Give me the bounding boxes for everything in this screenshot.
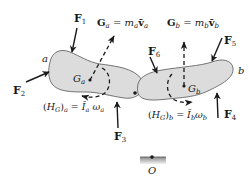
body-a-label: a	[42, 53, 48, 64]
angular-momentum-a-label: (HG)a = Īa ωa	[43, 101, 104, 114]
force-f1-arrow	[72, 28, 77, 52]
fixed-point-o-label: O	[148, 165, 156, 176]
body-b-label: b	[238, 65, 244, 76]
force-f3-arrow	[117, 102, 118, 128]
force-f1-label: F1	[74, 12, 86, 26]
force-f3-label: F3	[114, 130, 126, 144]
body-b	[137, 60, 233, 100]
force-f5-arrow	[212, 38, 222, 61]
body-a	[49, 50, 143, 98]
two-body-momentum-diagram: F1 F2 F3 F4 F5 F6 a b Ga Gb Ga = mav̄a G…	[0, 0, 249, 185]
pin-joint	[133, 91, 137, 95]
force-f6-arrow	[150, 57, 157, 73]
force-f5-label: F5	[224, 34, 236, 48]
linear-momentum-b-label: Gb = mbv̄b	[167, 17, 220, 30]
angular-momentum-b-label: (HG)b = Ībωb	[148, 109, 207, 122]
force-f2-arrow	[26, 72, 49, 82]
linear-momentum-a-label: Ga = mav̄a	[97, 17, 148, 30]
force-f4-label: F4	[224, 108, 237, 122]
force-f2-label: F2	[13, 84, 25, 98]
force-f6-label: F6	[148, 45, 161, 59]
force-f4-arrow	[217, 93, 218, 118]
fixed-point-o	[150, 155, 154, 159]
